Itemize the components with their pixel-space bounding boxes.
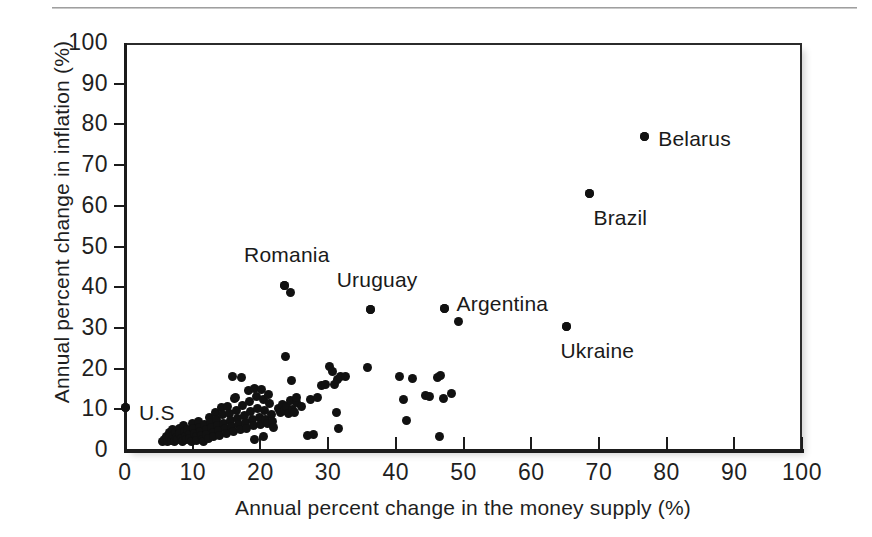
x-tick-label-30: 30: [298, 461, 358, 484]
x-tick-label-10: 10: [163, 461, 223, 484]
data-point-brazil: [585, 189, 594, 198]
y-tick-20: [114, 368, 126, 370]
data-point: [321, 380, 330, 389]
data-point-romania: [280, 281, 289, 290]
x-tick-80: [666, 437, 668, 450]
annotation-label-belarus: Belarus: [658, 128, 731, 149]
x-tick-label-90: 90: [704, 461, 764, 484]
data-point: [313, 393, 322, 402]
data-point: [281, 352, 290, 361]
data-point: [408, 374, 417, 383]
data-point: [436, 371, 445, 380]
y-tick-80: [114, 123, 126, 125]
data-point: [237, 373, 246, 382]
data-point-ukraine: [562, 322, 571, 331]
data-point-argentina: [440, 304, 449, 313]
annotation-label-us: U.S: [139, 402, 175, 423]
x-tick-100: [801, 437, 803, 450]
data-point: [332, 408, 341, 417]
plot-area-frame: [124, 43, 802, 452]
annotation-label-romania: Romania: [244, 244, 329, 265]
x-tick-70: [598, 437, 600, 450]
data-point-us: [121, 403, 130, 412]
data-point: [402, 416, 411, 425]
y-tick-60: [114, 205, 126, 207]
annotation-label-brazil: Brazil: [593, 207, 647, 228]
x-tick-label-100: 100: [772, 461, 832, 484]
annotation-label-uruguay: Uruguay: [337, 269, 418, 290]
x-tick-label-20: 20: [230, 461, 290, 484]
data-point: [439, 394, 448, 403]
y-tick-90: [114, 83, 126, 85]
x-tick-label-60: 60: [501, 461, 561, 484]
y-axis-spine: [124, 43, 127, 453]
annotation-label-argentina: Argentina: [457, 293, 549, 314]
y-tick-30: [114, 327, 126, 329]
annotation-label-ukraine: Ukraine: [560, 340, 634, 361]
y-axis-title: Annual percent change in inflation (%): [50, 12, 74, 432]
data-point: [309, 430, 318, 439]
data-point: [341, 372, 350, 381]
x-tick-label-80: 80: [637, 461, 697, 484]
data-point: [286, 288, 295, 297]
y-tick-40: [114, 286, 126, 288]
data-point: [435, 432, 444, 441]
data-point: [297, 402, 306, 411]
x-tick-40: [395, 437, 397, 450]
x-axis-title: Annual percent change in the money suppl…: [124, 496, 802, 520]
x-tick-50: [463, 437, 465, 450]
scatter-chart-figure: 0102030405060708090100 01020304050607080…: [0, 0, 872, 537]
data-point-belarus: [640, 132, 649, 141]
data-point: [287, 376, 296, 385]
x-tick-label-0: 0: [95, 461, 155, 484]
y-tick-70: [114, 164, 126, 166]
x-tick-90: [733, 437, 735, 450]
x-tick-60: [530, 437, 532, 450]
x-tick-label-70: 70: [569, 461, 629, 484]
x-tick-30: [327, 437, 329, 450]
y-tick-label-0: 0: [36, 438, 108, 461]
x-tick-label-50: 50: [434, 461, 494, 484]
x-tick-label-40: 40: [366, 461, 426, 484]
y-tick-50: [114, 246, 126, 248]
